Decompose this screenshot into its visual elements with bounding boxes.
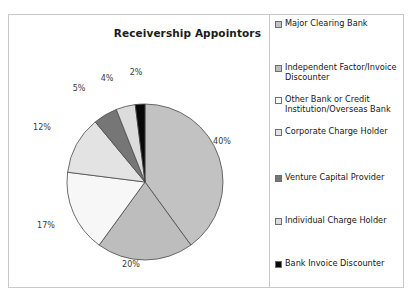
legend-swatch-icon [275, 218, 282, 225]
legend-item-label: Major Clearing Bank [285, 19, 403, 29]
legend: Major Clearing BankIndependent Factor/In… [270, 15, 403, 289]
legend-item-label: Venture Capital Provider [285, 173, 403, 183]
slice-value-label: 2% [130, 68, 143, 77]
legend-item-label: Other Bank or Credit Institution/Oversea… [285, 95, 403, 114]
legend-item-label: Bank Invoice Discounter [285, 259, 403, 269]
legend-item[interactable]: Bank Invoice Discounter [275, 259, 403, 269]
pie-slices [67, 104, 223, 260]
legend-item[interactable]: Independent Factor/Invoice Discounter [275, 63, 403, 82]
legend-swatch-icon [275, 175, 282, 182]
plot-area: 40%20%17%12%5%4%2% [9, 15, 269, 289]
slice-value-label: 4% [101, 74, 114, 83]
legend-swatch-icon [275, 261, 282, 268]
chart-frame: Receivership Appointors 40%20%17%12%5%4%… [8, 14, 404, 288]
slice-value-label: 20% [122, 260, 140, 269]
legend-swatch-icon [275, 65, 282, 72]
legend-swatch-icon [275, 129, 282, 136]
legend-item[interactable]: Venture Capital Provider [275, 173, 403, 183]
legend-item[interactable]: Other Bank or Credit Institution/Oversea… [275, 95, 403, 114]
pie-svg [9, 15, 269, 289]
slice-value-label: 17% [37, 221, 55, 230]
legend-item[interactable]: Individual Charge Holder [275, 216, 403, 226]
legend-swatch-icon [275, 21, 282, 28]
legend-item-label: Corporate Charge Holder [285, 127, 403, 137]
legend-swatch-icon [275, 97, 282, 104]
legend-item-label: Independent Factor/Invoice Discounter [285, 63, 403, 82]
slice-value-label: 12% [33, 123, 51, 132]
legend-item[interactable]: Corporate Charge Holder [275, 127, 403, 137]
slice-value-label: 40% [213, 137, 231, 146]
pie-chart-screenshot: Receivership Appointors 40%20%17%12%5%4%… [0, 0, 412, 299]
legend-item[interactable]: Major Clearing Bank [275, 19, 403, 29]
slice-value-label: 5% [73, 84, 86, 93]
legend-item-label: Individual Charge Holder [285, 216, 403, 226]
